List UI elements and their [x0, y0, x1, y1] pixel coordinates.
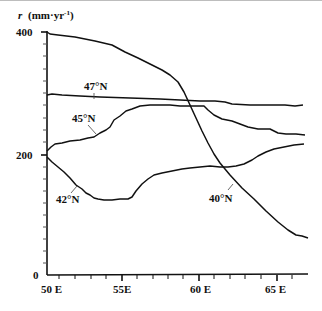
y-axis-label: r (mm·yr-1): [18, 9, 74, 22]
y-tick-0: 0: [33, 269, 39, 281]
y-tick-400: 400: [16, 26, 33, 38]
leader-40N: [228, 184, 233, 190]
series-label-47N: 47°N: [84, 80, 107, 92]
series-label-42N: 42°N: [56, 193, 79, 205]
series-40N-line: [47, 32, 308, 238]
leader-45N: [88, 125, 96, 134]
line-chart: r (mm·yr-1) 400 200 0: [0, 0, 322, 311]
x-tick-60E: 60 E: [190, 283, 211, 295]
x-tick-50E: 50 E: [41, 283, 62, 295]
series-47N-line: [47, 94, 303, 106]
series-label-40N: 40°N: [209, 192, 232, 204]
y-tick-200: 200: [16, 149, 33, 161]
x-tick-65E: 65 E: [265, 283, 286, 295]
series-label-45N: 45°N: [72, 112, 95, 124]
series-42N-line: [47, 144, 304, 200]
x-tick-55E: 55E: [113, 283, 131, 295]
axes: [41, 31, 308, 275]
leader-42N: [71, 186, 77, 193]
x-ticks: [59, 275, 292, 281]
